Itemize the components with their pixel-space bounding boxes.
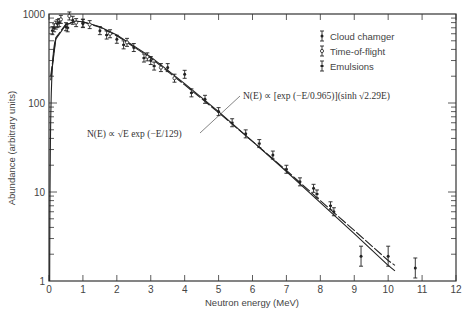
data-point-filled: [244, 132, 247, 135]
data-point-bar: [153, 65, 156, 67]
data-point-open: [88, 23, 91, 26]
x-tick-label: 7: [284, 284, 290, 295]
data-point-filled: [149, 59, 152, 62]
x-tick-label: 5: [216, 284, 222, 295]
data-point-filled: [217, 110, 220, 113]
data-point-filled: [115, 38, 118, 41]
data-point-bar: [285, 168, 288, 170]
data-point-bar: [329, 205, 332, 207]
fit-curve-line: [51, 21, 395, 265]
y-tick-label: 1000: [23, 9, 46, 20]
y-tick-label: 10: [34, 187, 46, 198]
annotation-maxwell: N(E) ∝ √E exp (−E/129): [87, 129, 182, 140]
data-point-bar: [122, 44, 125, 46]
x-tick-label: 12: [450, 284, 462, 295]
plot-frame: [49, 14, 456, 281]
x-tick-label: 3: [148, 284, 154, 295]
data-point-bar: [66, 27, 69, 29]
data-point-filled: [360, 255, 363, 258]
data-point-filled: [98, 29, 101, 32]
data-point-open: [159, 66, 162, 69]
data-point-bar: [231, 122, 234, 124]
data-point-bar: [142, 57, 145, 59]
data-point-bar: [315, 193, 318, 195]
y-axis-label: Abundance (arbitrary units): [6, 91, 17, 206]
data-point-bar: [81, 22, 84, 24]
data-point-filled: [132, 46, 135, 49]
chart-container: 01234567891011121101001000 Cloud chamger…: [0, 0, 469, 314]
y-tick-label: 1: [39, 276, 45, 287]
data-point-open: [68, 14, 71, 17]
data-point-bar: [51, 30, 54, 32]
data-point-filled: [298, 180, 301, 183]
data-point-filled: [414, 266, 417, 269]
data-point-bar: [258, 143, 261, 145]
data-point-open: [108, 32, 111, 35]
legend-marker-open: [320, 49, 323, 52]
data-point-filled: [312, 187, 315, 190]
data-point-open: [75, 21, 78, 24]
data-point-filled: [166, 66, 169, 69]
x-tick-label: 11: [417, 284, 428, 295]
data-point-filled: [183, 73, 186, 76]
data-point-bar: [56, 23, 59, 25]
data-point-filled: [271, 154, 274, 157]
legend-marker-bar: [321, 65, 324, 67]
legend-label: Time-of-flight: [330, 46, 385, 57]
fit-curve-line: [51, 21, 395, 271]
x-tick-label: 2: [114, 284, 120, 295]
x-axis-label: Neutron energy (MeV): [205, 297, 299, 308]
data-point-open: [146, 55, 149, 58]
legend-label: Emulsions: [330, 61, 374, 72]
annotations: N(E) ∝ [exp (−E/0.965)](sinh √2.29E)N(E)…: [87, 91, 390, 140]
y-tick-label: 100: [28, 98, 45, 109]
x-tick-label: 1: [80, 284, 86, 295]
plot-axes: 01234567891011121101001000: [23, 9, 462, 295]
x-tick-label: 10: [383, 284, 395, 295]
x-tick-label: 6: [250, 284, 256, 295]
annotation-watt: N(E) ∝ [exp (−E/0.965)](sinh √2.29E): [243, 91, 390, 102]
data-point-filled: [332, 210, 335, 213]
data-point-filled: [204, 98, 207, 101]
chart-svg: 01234567891011121101001000 Cloud chamger…: [0, 0, 469, 314]
data-point-filled: [71, 19, 74, 22]
x-tick-label: 0: [46, 284, 52, 295]
x-tick-label: 9: [351, 284, 357, 295]
data-point-bar: [105, 34, 108, 36]
legend-label: Cloud chamger: [330, 31, 394, 42]
data-point-bar: [190, 92, 193, 94]
data-point-open: [59, 18, 62, 21]
data-point-open: [125, 41, 128, 44]
data-point-filled: [387, 255, 390, 258]
legend-marker-filled: [321, 35, 324, 38]
x-tick-label: 4: [182, 284, 188, 295]
legend: Cloud chamgerTime-of-flightEmulsions: [320, 31, 394, 72]
data-point-open: [173, 77, 176, 80]
x-tick-label: 8: [318, 284, 324, 295]
